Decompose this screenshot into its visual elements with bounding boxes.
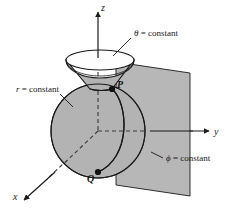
theta-constant-cone-rim <box>66 50 134 70</box>
point-q-marker <box>95 169 101 175</box>
spherical-coordinates-figure: θ = constant r = constant ϕ = constant z… <box>0 0 233 213</box>
figure-canvas: θ = constant r = constant ϕ = constant z… <box>0 0 233 213</box>
theta-constant-label: θ = constant <box>134 28 178 38</box>
x-axis-label: x <box>12 191 18 202</box>
y-axis-label: y <box>213 126 219 137</box>
point-p-label: P <box>117 79 124 90</box>
phi-constant-label: ϕ = constant <box>166 153 211 163</box>
point-p-marker <box>109 86 115 92</box>
r-constant-label: r = constant <box>16 84 60 94</box>
z-axis-label: z <box>100 2 105 13</box>
phi-rest: = constant <box>171 153 211 163</box>
r-rest: = constant <box>20 84 60 94</box>
point-q-label: Q <box>87 173 94 184</box>
theta-rest: = constant <box>138 28 178 38</box>
